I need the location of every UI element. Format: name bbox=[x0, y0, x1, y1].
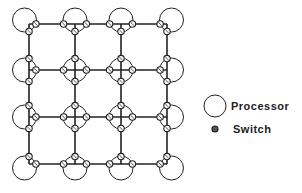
processor-node bbox=[160, 8, 184, 32]
processor-node bbox=[160, 156, 184, 180]
processor-node bbox=[13, 8, 37, 32]
processor-node bbox=[13, 156, 37, 180]
mesh-network-diagram bbox=[0, 0, 302, 193]
legend-processor-label: Processor bbox=[231, 100, 289, 112]
legend-switch-icon bbox=[212, 126, 218, 132]
legend-switch-label: Switch bbox=[233, 123, 271, 135]
legend-processor-icon bbox=[204, 95, 226, 117]
